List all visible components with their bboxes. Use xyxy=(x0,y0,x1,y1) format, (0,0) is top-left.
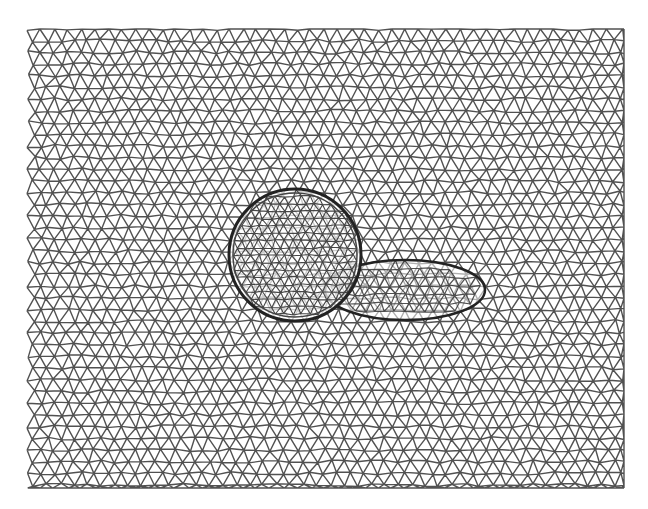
sphere-object xyxy=(229,189,361,321)
mesh-figure xyxy=(0,0,648,509)
